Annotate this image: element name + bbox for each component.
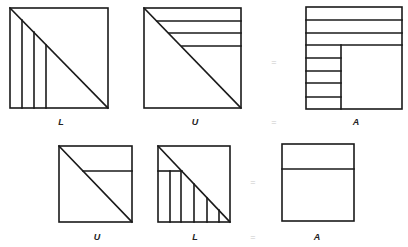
row2-matrix-A [282, 144, 354, 221]
row1-equals-label: = [271, 117, 276, 127]
row1-matrix-U [144, 8, 241, 108]
row2-equals-sign: = [250, 177, 255, 187]
row1-matrix-L [10, 8, 108, 108]
row2-matrix-L [158, 146, 230, 222]
row1-matrix-A [306, 7, 402, 109]
row2-matrix-U [59, 146, 132, 222]
diagonal [59, 146, 132, 222]
row1-label-A: A [353, 117, 360, 127]
row2-label-U: U [94, 232, 101, 242]
row1-equals-sign: = [271, 57, 276, 67]
diagonal [144, 8, 241, 108]
matrix-border [282, 144, 354, 221]
row2-equals-label: = [250, 232, 255, 242]
row2-label-L: L [192, 232, 198, 242]
row1-label-L: L [58, 117, 64, 127]
row1-label-U: U [192, 117, 199, 127]
row2-label-A: A [314, 232, 321, 242]
diagonal [10, 8, 108, 108]
